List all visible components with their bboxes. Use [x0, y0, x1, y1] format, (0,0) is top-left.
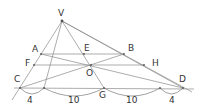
point-f: [33, 64, 35, 66]
length-label-1: 4: [27, 95, 33, 105]
point-o: [90, 64, 92, 66]
point-h: [143, 64, 145, 66]
label-f: F: [25, 58, 30, 68]
point-c: [19, 87, 21, 89]
label-e: E: [84, 43, 90, 53]
point-v: [61, 20, 64, 23]
label-d: D: [179, 74, 186, 84]
line-cb: [20, 54, 124, 88]
point-a: [40, 53, 42, 55]
length-label-2: 10: [68, 95, 80, 105]
line-ad: [41, 54, 183, 88]
length-label-3: 10: [126, 95, 138, 105]
label-b: B: [128, 43, 134, 53]
point-e: [83, 53, 85, 55]
point-base-4: [159, 87, 161, 89]
line-vg: [62, 21, 104, 88]
perspective-geometry-diagram: V A E B F O H C G D 4 10 10 4: [0, 0, 203, 111]
label-g: G: [99, 90, 106, 100]
label-o: O: [86, 68, 93, 78]
arc-seg-1: [20, 88, 44, 94]
label-v: V: [58, 8, 65, 18]
label-c: C: [14, 74, 20, 84]
point-g: [103, 87, 105, 89]
line-v-base2: [44, 21, 62, 88]
length-label-4: 4: [169, 95, 175, 105]
point-base-2: [43, 87, 45, 89]
point-d: [182, 87, 184, 89]
label-a: A: [32, 44, 39, 54]
label-h: H: [152, 58, 159, 68]
point-b: [123, 53, 125, 55]
